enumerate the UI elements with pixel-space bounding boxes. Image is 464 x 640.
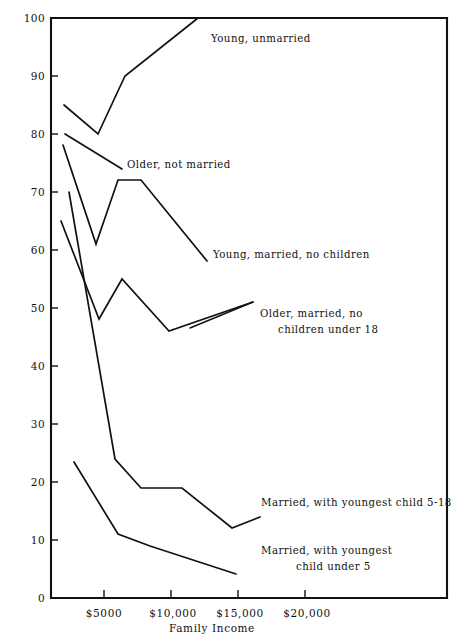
x-tick-label-5000: $5000 bbox=[86, 607, 122, 619]
y-tick-labels: 100 90 80 70 60 50 40 30 20 10 0 bbox=[24, 12, 45, 604]
series-line-married-youngest-child-under-5 bbox=[74, 462, 236, 574]
y-tick-label-10: 10 bbox=[31, 534, 45, 546]
y-tick-label-60: 60 bbox=[31, 244, 45, 256]
series-line-young-unmarried bbox=[64, 18, 198, 134]
y-tick-label-70: 70 bbox=[31, 186, 45, 198]
y-tick-label-40: 40 bbox=[31, 360, 45, 372]
y-tick-label-90: 90 bbox=[31, 70, 45, 82]
annotation-leaders bbox=[190, 302, 253, 328]
series-annotations: Young, unmarried Older, not married Youn… bbox=[127, 33, 452, 572]
series-label-married-youngest-under-5-line2: child under 5 bbox=[296, 561, 371, 572]
axes bbox=[51, 18, 447, 598]
y-tick-label-100: 100 bbox=[24, 12, 45, 24]
series-label-older-married-line1: Older, married, no bbox=[260, 308, 363, 319]
chart-canvas: 100 90 80 70 60 50 40 30 20 10 0 $5000 $… bbox=[0, 0, 464, 640]
y-tick-label-0: 0 bbox=[38, 592, 45, 604]
x-ticks bbox=[104, 590, 305, 598]
y-tick-label-30: 30 bbox=[31, 418, 45, 430]
x-tick-label-20000: $20,000 bbox=[283, 607, 331, 619]
line-chart: 100 90 80 70 60 50 40 30 20 10 0 $5000 $… bbox=[0, 0, 464, 640]
x-tick-labels: $5000 $10,000 $15,000 $20,000 bbox=[86, 607, 331, 619]
x-tick-label-15000: $15,000 bbox=[216, 607, 264, 619]
series-label-young-unmarried: Young, unmarried bbox=[210, 33, 311, 44]
series-label-married-youngest-under-5-line1: Married, with youngest bbox=[261, 545, 393, 556]
x-tick-label-10000: $10,000 bbox=[149, 607, 197, 619]
series-line-married-youngest-child-5-18 bbox=[69, 192, 260, 528]
series-label-young-married-no-children: Young, married, no children bbox=[212, 249, 370, 260]
series-label-older-not-married: Older, not married bbox=[127, 159, 231, 170]
leader-older-married bbox=[190, 302, 253, 328]
y-tick-label-80: 80 bbox=[31, 128, 45, 140]
x-axis-title: Family Income bbox=[169, 622, 255, 634]
series-label-older-married-line2: children under 18 bbox=[278, 324, 378, 335]
series-label-married-youngest-child-5-18: Married, with youngest child 5-18 bbox=[261, 497, 452, 508]
series-line-older-not-married bbox=[65, 134, 122, 169]
y-tick-label-20: 20 bbox=[31, 476, 45, 488]
y-tick-label-50: 50 bbox=[31, 302, 45, 314]
